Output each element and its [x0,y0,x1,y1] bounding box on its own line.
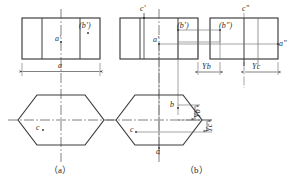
fig-b-label-c-prime: c' [140,5,146,13]
technical-drawing-canvas [0,0,296,187]
fig-b-point-b-dot [177,107,179,109]
fig-a-label-c: c [36,124,40,132]
caption-figure-b: （b） [185,166,208,175]
fig-b-dimension-label-yb-horizontal: Yb [202,63,211,71]
fig-b-label-c-double-prime: c" [242,5,249,13]
fig-a-point-c-dot [42,129,44,131]
fig-b-dimension-label-yc-horizontal: Yc [252,63,260,71]
fig-a-dimension-label-a: a [58,62,62,70]
fig-b-label-a-prime: a' [153,36,159,44]
fig-b-point-c-dot [135,131,137,133]
fig-b-label-c: c [130,126,134,134]
fig-b-point-c-prime-dot [143,17,145,19]
fig-b-label-b-prime: (b') [177,22,189,30]
fig-a-label-a-prime: a' [55,35,61,43]
fig-a-label-b-prime: (b') [79,22,91,30]
caption-figure-a: （a） [49,166,71,175]
fig-b-label-b-double-prime: (b") [219,22,233,30]
fig-b-dimension-label-yc-vertical: Yc [206,124,214,132]
sheet-background [0,0,296,187]
fig-b-label-b: b [170,101,174,109]
fig-b-label-a-double-prime: a" [279,40,287,48]
fig-b-label-a: a [156,148,160,156]
fig-a-point-b-prime-dot [87,32,89,34]
fig-b-dimension-label-yb-vertical: Yb [194,109,202,118]
drawing-sheet: a' (b') a c c' a' (b') c" (b") a" Yb Yc … [0,0,296,187]
